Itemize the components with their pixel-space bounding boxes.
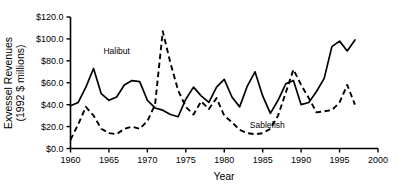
x-axis-tick-label: 1990	[291, 155, 311, 165]
series-annotation-label: Halibut	[103, 46, 130, 56]
x-axis-tick-label: 1965	[99, 155, 119, 165]
y-axis-title-line-2: (1992 $ millions)	[14, 44, 26, 121]
x-axis-tick-label: 2000	[368, 155, 388, 165]
x-axis-tick-label: 1970	[137, 155, 157, 165]
y-axis-tick-label: $60.0	[41, 78, 64, 88]
y-axis-title-line-1: Exvessel Revenues	[2, 37, 14, 129]
x-axis-tick-label: 1960	[60, 155, 80, 165]
chart-canvas: $0.0$20.0$40.0$60.0$80.0$100.0$120.0 196…	[0, 0, 397, 190]
y-axis-tick-labels: $0.0$20.0$40.0$60.0$80.0$100.0$120.0	[36, 12, 64, 154]
series-annotation-label: Sablefish	[250, 120, 285, 130]
y-axis-tick-label: $20.0	[41, 122, 64, 132]
y-axis-tick-label: $40.0	[41, 100, 64, 110]
x-axis-tick-label: 1980	[214, 155, 234, 165]
x-axis-tick-label: 1975	[176, 155, 196, 165]
chart-figure: $0.0$20.0$40.0$60.0$80.0$100.0$120.0 196…	[0, 0, 397, 190]
y-axis-tick-label: $120.0	[36, 12, 64, 22]
x-axis-title: Year	[213, 170, 235, 182]
y-axis-tick-label: $80.0	[41, 56, 64, 66]
y-axis-tick-label: $0.0	[46, 144, 64, 154]
x-axis-tick-labels: 196019651970197519801985199019952000	[60, 155, 388, 165]
axes-group	[67, 17, 379, 153]
x-axis-tick-label: 1995	[330, 155, 350, 165]
x-axis-tick-label: 1985	[253, 155, 273, 165]
y-axis-tick-label: $100.0	[36, 34, 64, 44]
